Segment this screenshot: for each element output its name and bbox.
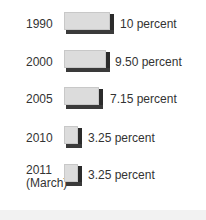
category-label: 2010	[26, 132, 53, 145]
value-label: 10 percent	[120, 18, 177, 31]
value-label: 3.25 percent	[88, 169, 155, 182]
chart-row-2005: 2005 7.15 percent	[0, 87, 206, 117]
chart-row-2010: 2010 3.25 percent	[0, 126, 206, 156]
bar-1990	[64, 12, 114, 34]
chart-row-2000: 2000 9.50 percent	[0, 50, 206, 80]
chart-row-1990: 1990 10 percent	[0, 12, 206, 42]
bar-2005	[64, 87, 103, 109]
category-label: 2000	[26, 56, 53, 69]
chart-row-2011: 2011 (March) 3.25 percent	[0, 164, 206, 194]
category-sublabel: (March)	[26, 177, 67, 190]
bar-2011	[64, 164, 82, 186]
value-label: 7.15 percent	[110, 93, 177, 106]
bar-2010	[64, 126, 82, 148]
value-label: 3.25 percent	[88, 132, 155, 145]
bar-2000	[64, 50, 110, 72]
category-label: 1990	[26, 18, 53, 31]
footer-band	[0, 210, 206, 220]
category-label: 2005	[26, 93, 53, 106]
value-label: 9.50 percent	[115, 56, 182, 69]
